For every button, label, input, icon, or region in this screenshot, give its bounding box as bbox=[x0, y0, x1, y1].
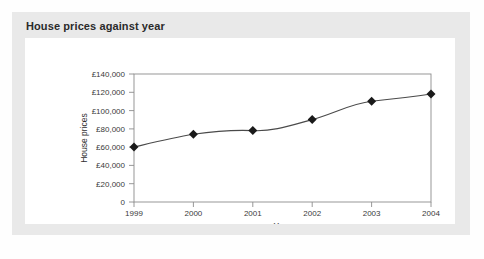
x-tick-label: 2000 bbox=[185, 209, 203, 218]
page-root: House prices against year bbox=[0, 0, 484, 259]
x-tick-label: 2001 bbox=[244, 209, 262, 218]
y-tick-label: £40,000 bbox=[96, 161, 125, 170]
x-axis-title: Year bbox=[273, 221, 290, 224]
x-axis-ticks bbox=[134, 202, 431, 207]
x-tick-label: 2002 bbox=[303, 209, 321, 218]
y-axis-ticks bbox=[129, 74, 134, 202]
x-tick-label: 1999 bbox=[125, 209, 143, 218]
y-tick-label: £100,000 bbox=[92, 107, 126, 116]
x-tick-label: 2004 bbox=[422, 209, 440, 218]
chart-card: House prices against year bbox=[12, 12, 470, 235]
y-tick-label: £20,000 bbox=[96, 180, 125, 189]
y-tick-label: 0 bbox=[121, 198, 126, 207]
y-axis-title: House prices bbox=[79, 113, 89, 163]
chart-panel: £140,000 £120,000 £100,000 £80,000 £60,0… bbox=[25, 38, 455, 224]
plot-frame bbox=[134, 74, 431, 202]
y-tick-label: £120,000 bbox=[92, 88, 126, 97]
y-axis-tick-labels: £140,000 £120,000 £100,000 £80,000 £60,0… bbox=[92, 70, 126, 207]
x-axis-tick-labels: 1999 2000 2001 2002 2003 2004 bbox=[125, 209, 440, 218]
y-tick-label: £80,000 bbox=[96, 125, 125, 134]
y-tick-label: £140,000 bbox=[92, 70, 126, 79]
line-chart: £140,000 £120,000 £100,000 £80,000 £60,0… bbox=[25, 38, 455, 224]
x-tick-label: 2003 bbox=[363, 209, 381, 218]
page-title: House prices against year bbox=[26, 20, 165, 32]
y-tick-label: £60,000 bbox=[96, 143, 125, 152]
